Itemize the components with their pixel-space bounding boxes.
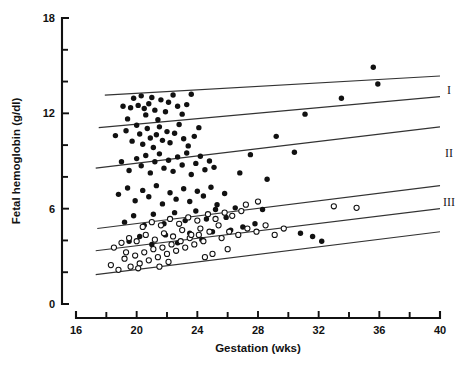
data-point-open	[254, 229, 259, 234]
data-point-open	[128, 264, 133, 269]
data-point-open	[142, 250, 147, 255]
data-point-filled	[189, 172, 194, 177]
data-point-open	[152, 237, 157, 242]
data-point-filled	[154, 183, 159, 188]
data-point-filled	[202, 167, 207, 172]
data-point-filled	[175, 103, 180, 108]
data-point-filled	[170, 92, 175, 97]
data-point-open	[133, 253, 138, 258]
data-point-open	[111, 245, 116, 250]
data-point-filled	[158, 97, 163, 102]
data-point-open	[213, 216, 218, 221]
data-point-open	[222, 210, 227, 215]
data-point-open	[170, 234, 175, 239]
data-point-filled	[134, 123, 139, 128]
data-point-filled	[142, 106, 147, 111]
data-point-filled	[176, 122, 181, 127]
data-point-open	[164, 251, 169, 256]
data-point-filled	[135, 103, 140, 108]
data-point-filled	[193, 208, 198, 213]
data-point-open	[166, 259, 171, 264]
data-point-open	[116, 267, 121, 272]
data-point-filled	[167, 140, 172, 145]
data-point-open	[126, 235, 131, 240]
data-point-filled	[148, 135, 153, 140]
data-point-filled	[119, 159, 124, 164]
x-axis-tick-label: 36	[373, 324, 385, 336]
data-point-filled	[161, 165, 166, 170]
reference-line	[96, 209, 440, 251]
data-point-open	[140, 224, 145, 229]
data-point-filled	[151, 145, 156, 150]
data-point-filled	[173, 196, 178, 201]
data-point-filled	[163, 109, 168, 114]
data-point-filled	[145, 126, 150, 131]
data-point-open	[354, 205, 359, 210]
data-point-filled	[131, 96, 136, 101]
data-point-open	[216, 223, 221, 228]
data-point-filled	[160, 201, 165, 206]
data-point-filled	[154, 132, 159, 137]
data-point-filled	[167, 190, 172, 195]
scatter-plot-figure: 061218Fetal hemoglobin (g/dl)16202428323…	[0, 0, 474, 367]
data-point-open	[134, 239, 139, 244]
data-point-filled	[181, 186, 186, 191]
data-point-open	[167, 216, 172, 221]
reference-line	[96, 127, 440, 168]
x-axis-tick-label: 16	[70, 324, 82, 336]
data-point-filled	[302, 111, 307, 116]
data-point-filled	[192, 134, 197, 139]
data-point-filled	[214, 202, 219, 207]
data-point-filled	[298, 231, 303, 236]
data-point-filled	[179, 162, 184, 167]
line-group-label: III	[443, 195, 455, 209]
data-point-open	[177, 221, 182, 226]
data-point-open	[210, 251, 215, 256]
data-point-open	[160, 245, 165, 250]
data-point-filled	[201, 193, 206, 198]
data-point-filled	[113, 133, 118, 138]
data-point-filled	[193, 161, 198, 166]
data-point-open	[186, 215, 191, 220]
data-point-filled	[186, 143, 191, 148]
y-axis-line	[62, 18, 69, 304]
data-point-open	[169, 242, 174, 247]
data-point-filled	[184, 150, 189, 155]
data-point-filled	[143, 112, 148, 117]
data-point-open	[195, 218, 200, 223]
data-point-filled	[131, 213, 136, 218]
data-point-filled	[237, 170, 242, 175]
data-point-open	[155, 255, 160, 260]
data-point-open	[174, 248, 179, 253]
data-point-filled	[137, 131, 142, 136]
data-point-open	[331, 204, 336, 209]
data-point-filled	[152, 107, 157, 112]
data-point-filled	[152, 159, 157, 164]
data-point-filled	[233, 205, 238, 210]
data-point-filled	[128, 105, 133, 110]
data-point-open	[230, 213, 235, 218]
data-point-filled	[198, 154, 203, 159]
data-point-open	[227, 229, 232, 234]
data-point-open	[189, 232, 194, 237]
data-point-open	[192, 242, 197, 247]
x-axis-title: Gestation (wks)	[215, 342, 301, 354]
reference-line	[97, 186, 440, 229]
data-point-open	[205, 212, 210, 217]
data-point-filled	[122, 219, 127, 224]
data-point-filled	[123, 128, 128, 133]
data-point-filled	[175, 154, 180, 159]
data-point-filled	[310, 234, 315, 239]
data-point-filled	[164, 129, 169, 134]
reference-line	[99, 97, 440, 128]
data-point-filled	[252, 221, 257, 226]
data-point-open	[108, 262, 113, 267]
data-point-filled	[274, 134, 279, 139]
reference-line	[96, 232, 440, 275]
data-point-open	[236, 232, 241, 237]
data-point-open	[119, 240, 124, 245]
data-point-open	[281, 226, 286, 231]
data-point-open	[219, 235, 224, 240]
data-point-filled	[248, 152, 253, 157]
data-point-open	[151, 247, 156, 252]
